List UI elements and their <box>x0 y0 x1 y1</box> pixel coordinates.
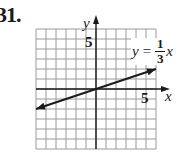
coordinate-plane <box>0 0 185 164</box>
equation-lhs: y <box>132 43 139 60</box>
fraction-denominator: 3 <box>157 53 164 65</box>
equation-label: y = 1 3 x <box>131 38 174 65</box>
equation-equals: = <box>143 43 151 60</box>
equation-variable: x <box>166 43 173 60</box>
fraction-numerator: 1 <box>157 38 164 50</box>
y-tick-5: 5 <box>85 34 93 51</box>
x-axis-label: x <box>165 88 172 105</box>
x-tick-5: 5 <box>141 90 149 107</box>
equation-fraction: 1 3 <box>155 38 165 65</box>
y-axis-label: y <box>83 15 90 32</box>
